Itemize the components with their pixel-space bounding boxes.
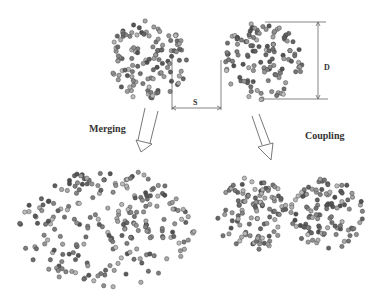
- particle: [121, 222, 125, 226]
- particle: [340, 199, 344, 203]
- particle: [258, 227, 262, 231]
- particle: [281, 92, 285, 96]
- particle: [268, 215, 272, 219]
- particle: [107, 233, 111, 237]
- particle: [156, 90, 160, 94]
- particle: [257, 31, 261, 35]
- particle: [249, 216, 253, 220]
- particle: [346, 198, 350, 202]
- particle: [224, 68, 228, 72]
- particle: [177, 58, 181, 62]
- particle: [152, 254, 156, 258]
- particle: [119, 256, 123, 260]
- particle: [65, 188, 69, 192]
- particle: [241, 189, 245, 193]
- particle-clusters: [18, 19, 365, 289]
- particle: [140, 198, 144, 202]
- particle: [86, 264, 90, 268]
- particle: [23, 210, 27, 214]
- particle: [314, 188, 318, 192]
- particle: [259, 91, 263, 95]
- particle: [242, 79, 246, 83]
- particle: [155, 204, 159, 208]
- particle: [221, 234, 225, 238]
- particle: [253, 26, 257, 30]
- particle: [260, 188, 264, 192]
- particle: [82, 242, 86, 246]
- particle: [328, 190, 332, 194]
- particle: [163, 193, 167, 197]
- particle: [314, 206, 318, 210]
- particle: [157, 57, 161, 61]
- particle: [73, 184, 77, 188]
- particle: [247, 33, 251, 37]
- particle: [142, 173, 146, 177]
- particle: [156, 194, 160, 198]
- particle: [248, 234, 252, 238]
- particle: [163, 184, 167, 188]
- particle: [71, 250, 75, 254]
- particle: [236, 199, 240, 203]
- particle: [340, 183, 344, 187]
- particle: [174, 197, 178, 201]
- particle: [43, 242, 47, 246]
- particle: [359, 199, 363, 203]
- particle: [42, 233, 46, 237]
- particle: [57, 275, 61, 279]
- particle: [133, 196, 137, 200]
- particle: [255, 236, 259, 240]
- particle: [268, 65, 272, 69]
- particle: [124, 272, 128, 276]
- particle: [116, 219, 120, 223]
- particle: [169, 54, 173, 58]
- particle: [277, 212, 281, 216]
- particle: [128, 176, 132, 180]
- particle: [264, 53, 268, 57]
- particle: [240, 182, 244, 186]
- particle: [98, 171, 102, 175]
- particle: [315, 198, 319, 202]
- particle: [125, 241, 129, 245]
- particle: [172, 234, 176, 238]
- particle: [275, 93, 279, 97]
- particle: [142, 32, 146, 36]
- particle: [294, 212, 298, 216]
- particle: [282, 35, 286, 39]
- particle: [318, 192, 322, 196]
- particle: [242, 176, 246, 180]
- particle: [245, 39, 249, 43]
- particle: [103, 273, 107, 277]
- particle: [136, 228, 140, 232]
- particle: [116, 45, 120, 49]
- particle: [237, 203, 241, 207]
- particle: [96, 183, 100, 187]
- particle: [144, 193, 148, 197]
- particle: [152, 25, 156, 29]
- particle: [259, 60, 263, 64]
- particle: [360, 209, 364, 213]
- particle: [293, 54, 297, 58]
- particle: [277, 26, 281, 30]
- particle: [56, 209, 60, 213]
- particle: [56, 268, 60, 272]
- particle: [131, 95, 135, 99]
- particle: [99, 188, 103, 192]
- particle: [299, 236, 303, 240]
- particle: [283, 203, 287, 207]
- particle: [326, 246, 330, 250]
- particle: [192, 229, 196, 233]
- particle: [130, 69, 134, 73]
- particle: [272, 229, 276, 233]
- particle: [253, 187, 257, 191]
- particle: [33, 214, 37, 218]
- particle: [144, 219, 148, 223]
- particle: [329, 201, 333, 205]
- particle: [350, 191, 354, 195]
- particle: [165, 65, 169, 69]
- particle: [112, 40, 116, 44]
- particle: [160, 61, 164, 65]
- particle: [224, 208, 228, 212]
- particle: [144, 204, 148, 208]
- particle: [272, 29, 276, 33]
- particle: [40, 208, 44, 212]
